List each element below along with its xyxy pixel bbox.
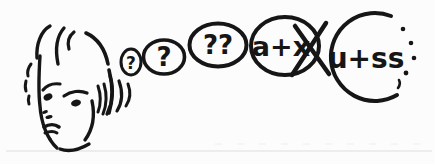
hair-stroke	[103, 84, 106, 114]
hair-stroke	[86, 33, 108, 64]
bubble-text: ??	[203, 30, 233, 60]
sketch-drawing: ? ? ?? a+x u+ss	[0, 0, 435, 164]
hair-stroke	[28, 64, 31, 76]
thought-bubble-tiny: ?	[121, 49, 141, 75]
bubble-edge-dot	[404, 71, 409, 76]
bubble-edge-dot	[409, 41, 414, 46]
hair-stroke	[28, 96, 29, 104]
nose-mark	[42, 109, 49, 114]
hair-stroke	[68, 32, 74, 49]
bubble-text: ?	[126, 53, 136, 73]
right-eye	[70, 99, 81, 108]
thought-bubble-small: ?	[144, 40, 185, 74]
neck-stroke	[126, 84, 130, 106]
thinking-person-head	[25, 26, 129, 151]
sketch-canvas: ? ? ?? a+x u+ss	[0, 0, 435, 164]
chin-outline	[60, 144, 89, 151]
chin-dot	[48, 138, 51, 141]
bubble-text-prefix: a+	[252, 31, 293, 62]
thought-bubble-crossed: a+x	[251, 17, 329, 75]
nose-mark	[45, 114, 53, 119]
bubble-text: ?	[156, 42, 171, 72]
left-eye	[42, 92, 53, 102]
thought-bubble-medium: ??	[190, 24, 247, 67]
upper-lip	[44, 125, 59, 127]
lower-lip	[45, 132, 57, 134]
bubble-edge-dot	[401, 27, 406, 32]
right-eyebrow	[64, 91, 87, 96]
hair-stroke	[57, 28, 64, 64]
face-outline	[39, 56, 57, 148]
neck-stroke	[117, 81, 121, 111]
hair-stroke	[37, 26, 50, 58]
bubble-text: u+ss	[328, 42, 405, 75]
cheek-outline	[85, 101, 93, 140]
thought-bubble-final: u+ss	[328, 13, 417, 101]
left-eyebrow	[43, 84, 60, 90]
bubble-edge-comma	[398, 80, 400, 88]
bubble-edge-dot	[412, 56, 417, 61]
hair-stroke	[98, 86, 100, 112]
hair-stroke	[25, 81, 26, 91]
